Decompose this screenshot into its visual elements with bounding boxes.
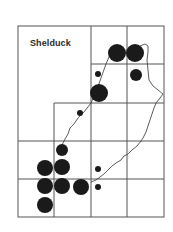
record-dot-large [37, 197, 53, 213]
record-dot-small [77, 110, 83, 116]
record-dot-small [95, 184, 101, 190]
record-dot-small [95, 71, 101, 77]
record-dot-large [37, 178, 53, 194]
record-dot-medium [56, 144, 68, 156]
coastline [61, 44, 163, 182]
record-dot-large [90, 84, 108, 102]
record-dot-large [126, 44, 144, 62]
record-dot-small [95, 166, 101, 172]
record-dot-large [73, 179, 89, 195]
record-dot-large [108, 44, 126, 62]
record-dot-large [54, 178, 70, 194]
map-canvas [0, 0, 173, 232]
record-dot-medium [130, 69, 142, 81]
map-title: Shelduck [30, 38, 71, 48]
record-dot-large [54, 159, 70, 175]
record-dot-large [37, 160, 53, 176]
